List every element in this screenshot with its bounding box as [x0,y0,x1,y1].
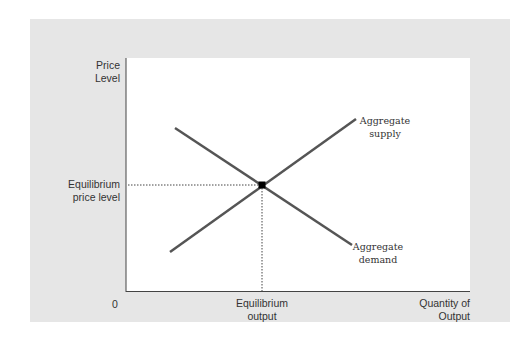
plot-area [126,58,470,292]
equilibrium-output-line1: Equilibrium [222,297,302,310]
equilibrium-output-line2: output [222,310,302,323]
y-axis-label-line2: Level [60,72,120,85]
aggregate-supply-line1: Aggregate [355,114,415,127]
aggregate-supply-label: Aggregate supply [355,114,415,140]
equilibrium-price-label: Equilibrium price level [40,178,120,204]
equilibrium-output-label: Equilibrium output [222,297,302,323]
aggregate-demand-label: Aggregate demand [348,240,408,266]
x-axis-label-line1: Quantity of [390,297,470,310]
y-axis-label: Price Level [60,59,120,85]
aggregate-demand-line2: demand [348,253,408,266]
y-axis-label-line1: Price [60,59,120,72]
x-axis-label: Quantity of Output [390,297,470,323]
aggregate-demand-line1: Aggregate [348,240,408,253]
equilibrium-price-line2: price level [40,191,120,204]
equilibrium-price-line1: Equilibrium [40,178,120,191]
aggregate-supply-line2: supply [355,127,415,140]
equilibrium-point [259,182,266,189]
diagram-canvas [0,0,525,348]
x-axis-label-line2: Output [390,310,470,323]
origin-label: 0 [112,298,118,311]
